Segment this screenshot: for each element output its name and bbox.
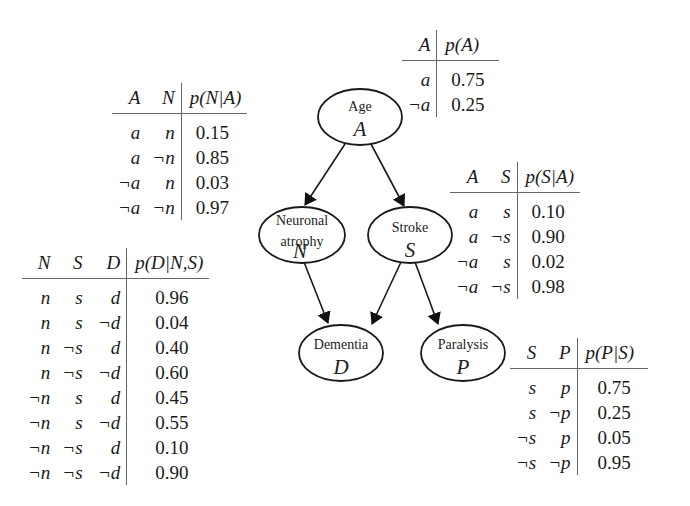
header-s: S xyxy=(510,338,542,369)
cell-prob: 0.97 xyxy=(181,195,247,220)
header-prob: p(S|A) xyxy=(517,162,580,193)
cell-p: ¬p xyxy=(542,400,577,425)
cell-a: ¬a xyxy=(112,195,146,220)
cell-s: ¬s xyxy=(56,335,88,360)
cell-n: n xyxy=(22,310,56,335)
node-paralysis: Paralysis P xyxy=(421,325,505,381)
cell-prob: 0.25 xyxy=(437,92,499,117)
cell-d: ¬d xyxy=(89,310,127,335)
cell-s: s xyxy=(56,279,88,311)
cell-d: ¬d xyxy=(89,410,127,435)
cell-prob: 0.40 xyxy=(127,335,210,360)
cell-s: s xyxy=(484,193,517,225)
cell-a: ¬a xyxy=(402,92,437,117)
cell-n: n xyxy=(146,170,181,195)
cell-s: s xyxy=(510,369,542,401)
cpt-dementia-given-neuronal-stroke: N S D p(D|N,S) nsd0.96 ns¬d0.04 n¬sd0.40… xyxy=(22,248,209,485)
cell-s: ¬s xyxy=(484,224,517,249)
cell-prob: 0.96 xyxy=(127,279,210,311)
node-dementia-label: Dementia xyxy=(314,337,369,352)
cell-prob: 0.95 xyxy=(577,450,648,475)
cell-prob: 0.03 xyxy=(181,170,247,195)
cell-a: ¬a xyxy=(112,170,146,195)
cell-d: d xyxy=(89,279,127,311)
node-neuronal-symbol: N xyxy=(292,239,308,263)
cell-prob: 0.85 xyxy=(181,145,247,170)
cell-s: s xyxy=(510,400,542,425)
node-paralysis-symbol: P xyxy=(456,355,470,379)
cell-a: a xyxy=(402,61,437,93)
node-age-label: Age xyxy=(348,99,371,114)
edge-stroke-paralysis xyxy=(415,262,438,324)
node-dementia: Dementia D xyxy=(299,325,383,381)
cell-d: d xyxy=(89,335,127,360)
cell-d: ¬d xyxy=(89,360,127,385)
cell-prob: 0.10 xyxy=(517,193,580,225)
cell-s: ¬s xyxy=(484,274,517,299)
node-paralysis-label: Paralysis xyxy=(438,337,489,352)
cell-n: ¬n xyxy=(22,410,56,435)
cell-d: ¬d xyxy=(89,460,127,485)
header-prob: p(A) xyxy=(437,30,499,61)
cell-a: a xyxy=(450,193,484,225)
header-s: S xyxy=(56,248,88,279)
cell-n: ¬n xyxy=(22,460,56,485)
cell-d: d xyxy=(89,435,127,460)
cell-s: ¬s xyxy=(510,450,542,475)
header-p: P xyxy=(542,338,577,369)
node-neuronal-label-1: Neuronal xyxy=(276,213,328,228)
cpt-neuronal-given-age: A N p(N|A) an0.15 a¬n0.85 ¬an0.03 ¬a¬n0.… xyxy=(112,83,247,220)
cell-p: p xyxy=(542,425,577,450)
node-dementia-symbol: D xyxy=(332,355,348,379)
cell-prob: 0.15 xyxy=(181,114,247,146)
cell-n: ¬n xyxy=(146,195,181,220)
node-age-symbol: A xyxy=(352,117,367,141)
cell-prob: 0.25 xyxy=(577,400,648,425)
cell-s: ¬s xyxy=(56,360,88,385)
cell-a: a xyxy=(112,114,146,146)
header-n: N xyxy=(146,83,181,114)
cell-n: ¬n xyxy=(22,385,56,410)
cell-prob: 0.05 xyxy=(577,425,648,450)
cell-prob: 0.90 xyxy=(517,224,580,249)
cell-n: n xyxy=(146,114,181,146)
cell-s: ¬s xyxy=(510,425,542,450)
cell-s: ¬s xyxy=(56,460,88,485)
header-prob: p(N|A) xyxy=(181,83,247,114)
header-prob: p(P|S) xyxy=(577,338,648,369)
cell-p: p xyxy=(542,369,577,401)
cpt-paralysis-given-stroke: S P p(P|S) sp0.75 s¬p0.25 ¬sp0.05 ¬s¬p0.… xyxy=(510,338,648,475)
cpt-stroke-given-age: A S p(S|A) as0.10 a¬s0.90 ¬as0.02 ¬a¬s0.… xyxy=(450,162,580,299)
node-neuronal-atrophy: Neuronal atrophy N xyxy=(259,207,345,263)
edge-age-neuronal xyxy=(305,144,345,205)
node-age: Age A xyxy=(318,89,402,145)
cell-s: ¬s xyxy=(56,435,88,460)
cell-s: s xyxy=(56,310,88,335)
cell-n: n xyxy=(22,279,56,311)
cell-n: n xyxy=(22,335,56,360)
cell-d: d xyxy=(89,385,127,410)
header-d: D xyxy=(89,248,127,279)
cell-prob: 0.75 xyxy=(577,369,648,401)
cell-prob: 0.75 xyxy=(437,61,499,93)
header-prob: p(D|N,S) xyxy=(127,248,210,279)
cell-a: ¬a xyxy=(450,274,484,299)
cell-prob: 0.04 xyxy=(127,310,210,335)
node-stroke-symbol: S xyxy=(405,238,416,262)
edge-neuronal-dementia xyxy=(304,262,328,323)
edge-stroke-dementia xyxy=(372,262,401,324)
node-stroke: Stroke S xyxy=(368,207,452,263)
cell-n: ¬n xyxy=(146,145,181,170)
cell-a: ¬a xyxy=(450,249,484,274)
header-n: N xyxy=(22,248,56,279)
cell-prob: 0.10 xyxy=(127,435,210,460)
cell-a: a xyxy=(112,145,146,170)
cell-prob: 0.45 xyxy=(127,385,210,410)
header-a: A xyxy=(402,30,437,61)
cell-prob: 0.98 xyxy=(517,274,580,299)
cell-p: ¬p xyxy=(542,450,577,475)
cell-s: s xyxy=(56,410,88,435)
node-stroke-label: Stroke xyxy=(392,220,429,235)
cell-a: a xyxy=(450,224,484,249)
cpt-age: A p(A) a 0.75 ¬a 0.25 xyxy=(402,30,499,117)
